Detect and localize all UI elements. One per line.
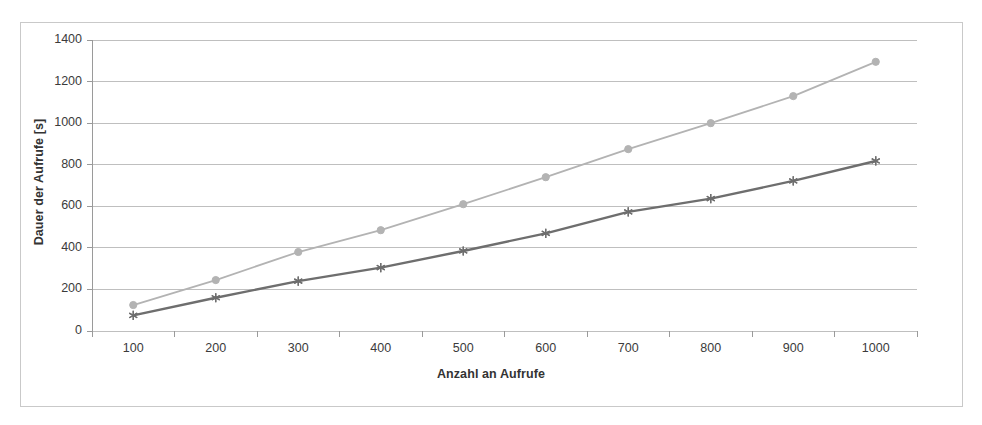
data-point-series-light-700 xyxy=(625,146,632,153)
series-line-series-light xyxy=(133,62,876,305)
tick-marks-group xyxy=(87,40,917,337)
chart-container: Dauer der Aufrufe [s] Anzahl an Aufrufe … xyxy=(0,0,982,425)
data-series-group xyxy=(129,58,879,320)
y-tick-label-600: 600 xyxy=(36,198,82,212)
x-tick-label-100: 100 xyxy=(103,341,163,355)
data-point-series-light-600 xyxy=(542,174,549,181)
y-tick-label-1400: 1400 xyxy=(36,32,82,46)
x-tick-label-800: 800 xyxy=(681,341,741,355)
x-tick-label-400: 400 xyxy=(351,341,411,355)
data-point-series-light-200 xyxy=(212,276,219,283)
x-tick-label-200: 200 xyxy=(186,341,246,355)
x-tick-label-900: 900 xyxy=(763,341,823,355)
y-tick-label-400: 400 xyxy=(36,240,82,254)
x-tick-label-500: 500 xyxy=(433,341,493,355)
data-point-series-light-300 xyxy=(295,248,302,255)
y-tick-label-0: 0 xyxy=(36,323,82,337)
data-point-series-light-1000 xyxy=(872,58,879,65)
x-tick-label-600: 600 xyxy=(516,341,576,355)
x-tick-label-1000: 1000 xyxy=(846,341,906,355)
series-series-dark xyxy=(129,156,879,320)
y-tick-label-1200: 1200 xyxy=(36,74,82,88)
x-tick-label-300: 300 xyxy=(268,341,328,355)
data-point-series-light-100 xyxy=(130,301,137,308)
series-line-series-dark xyxy=(133,161,876,315)
y-tick-label-800: 800 xyxy=(36,157,82,171)
series-series-light xyxy=(130,58,880,308)
data-point-series-light-900 xyxy=(790,93,797,100)
data-point-series-light-400 xyxy=(377,227,384,234)
x-tick-label-700: 700 xyxy=(598,341,658,355)
data-point-series-light-500 xyxy=(460,201,467,208)
data-point-series-light-800 xyxy=(707,120,714,127)
chart-plot-svg xyxy=(0,0,982,425)
y-tick-label-200: 200 xyxy=(36,281,82,295)
y-tick-label-1000: 1000 xyxy=(36,115,82,129)
